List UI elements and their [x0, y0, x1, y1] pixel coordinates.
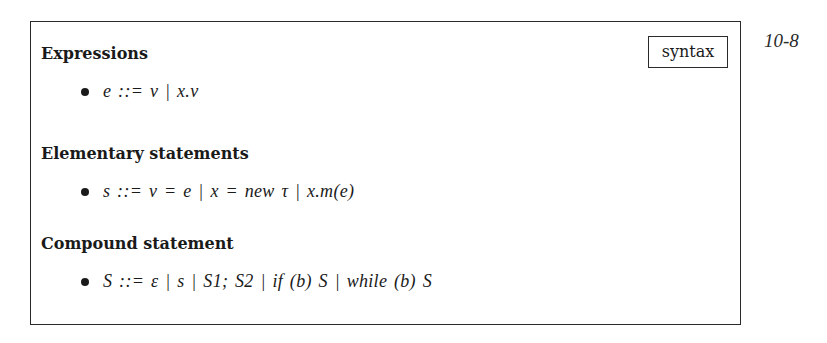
section-heading: Compound statement [41, 234, 432, 253]
rule-text: s ::= v = e | x = new τ | x.m(e) [103, 181, 354, 202]
grammar-rule: e ::= v | x.v [81, 81, 198, 102]
bullet-icon [81, 278, 89, 286]
bullet-icon [81, 188, 89, 196]
section-elementary-statements: Elementary statements s ::= v = e | x = … [41, 144, 354, 202]
section-expressions: Expressions e ::= v | x.v [41, 44, 198, 102]
syntax-tag: syntax [648, 36, 728, 68]
section-heading: Expressions [41, 44, 198, 63]
bullet-icon [81, 88, 89, 96]
rule-text: S ::= ε | s | S1; S2 | if (b) S | while … [103, 271, 432, 292]
page-number: 10-8 [764, 30, 799, 52]
grammar-rule: S ::= ε | s | S1; S2 | if (b) S | while … [81, 271, 432, 292]
section-compound-statement: Compound statement S ::= ε | s | S1; S2 … [41, 234, 432, 292]
section-heading: Elementary statements [41, 144, 354, 163]
rule-text: e ::= v | x.v [103, 81, 198, 102]
slide-frame: syntax Expressions e ::= v | x.v Element… [30, 21, 741, 325]
grammar-rule: s ::= v = e | x = new τ | x.m(e) [81, 181, 354, 202]
